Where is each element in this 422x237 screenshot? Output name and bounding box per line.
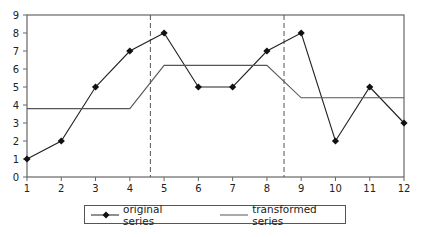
legend-label-original: original series (123, 203, 192, 227)
chart-legend: original series transformed series (84, 205, 346, 224)
x-tick-label: 4 (127, 183, 133, 194)
line-chart: 0123456789123456789101112 (0, 0, 422, 237)
diamond-marker-icon (58, 137, 65, 144)
original-series-line (27, 33, 404, 159)
x-tick-label: 7 (229, 183, 235, 194)
y-tick-label: 5 (13, 82, 19, 93)
y-tick-label: 6 (13, 64, 19, 75)
y-tick-label: 0 (13, 172, 19, 183)
diamond-marker-icon (160, 29, 167, 36)
diamond-marker-line-icon (91, 210, 119, 220)
x-tick-label: 1 (24, 183, 30, 194)
x-tick-label: 12 (398, 183, 411, 194)
y-tick-label: 7 (13, 46, 19, 57)
y-tick-label: 1 (13, 154, 19, 165)
legend-label-transformed: transformed series (252, 203, 345, 227)
x-tick-label: 10 (329, 183, 342, 194)
diamond-marker-icon (332, 137, 339, 144)
y-tick-label: 4 (13, 100, 19, 111)
x-tick-label: 6 (195, 183, 201, 194)
diamond-marker-icon (298, 29, 305, 36)
y-tick-label: 2 (13, 136, 19, 147)
plain-line-icon (220, 210, 248, 220)
x-tick-label: 5 (161, 183, 167, 194)
diamond-marker-icon (195, 83, 202, 90)
y-tick-label: 9 (13, 10, 19, 21)
x-tick-label: 8 (264, 183, 270, 194)
diamond-marker-icon (23, 155, 30, 162)
plot-frame (27, 15, 404, 177)
x-tick-label: 2 (58, 183, 64, 194)
x-tick-label: 11 (363, 183, 376, 194)
y-tick-label: 3 (13, 118, 19, 129)
plot-area: 0123456789123456789101112 (13, 10, 411, 195)
x-tick-label: 3 (92, 183, 98, 194)
y-tick-label: 8 (13, 28, 19, 39)
x-tick-label: 9 (298, 183, 304, 194)
legend-item-original: original series (85, 203, 192, 227)
legend-item-transformed: transformed series (214, 203, 345, 227)
